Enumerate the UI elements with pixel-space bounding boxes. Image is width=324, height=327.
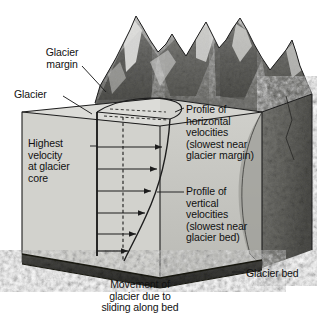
- label-glacier-bed: Glacier bed: [246, 268, 322, 280]
- label-horizontal-velocity-profile: Profile of horizontal velocities (slowes…: [186, 104, 284, 162]
- label-glacier-movement: Movement of glacier due to sliding along…: [74, 279, 206, 314]
- label-vertical-velocity-profile: Profile of vertical velocities (slowest …: [186, 186, 284, 244]
- label-highest-velocity: Highest velocity at glacier core: [28, 138, 94, 184]
- glacier-velocity-diagram: Glacier margin Glacier Highest velocity …: [0, 0, 324, 327]
- label-glacier-margin: Glacier margin: [25, 47, 99, 70]
- label-glacier: Glacier: [14, 89, 72, 101]
